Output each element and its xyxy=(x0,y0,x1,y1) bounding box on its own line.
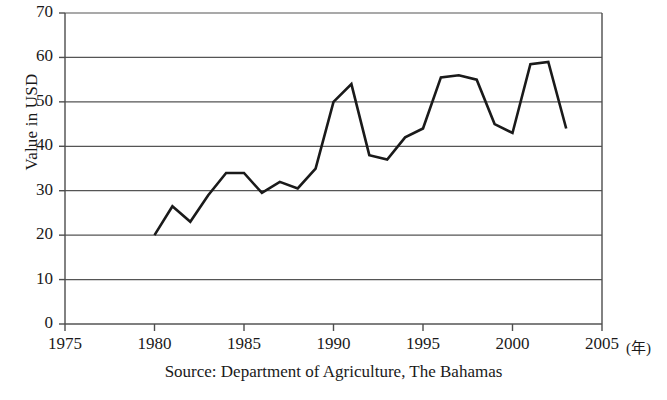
y-tick-label: 20 xyxy=(13,224,53,244)
source-note: Source: Department of Agriculture, The B… xyxy=(165,362,503,382)
x-tick-label: 2000 xyxy=(483,334,543,354)
y-tick-label: 40 xyxy=(13,135,53,155)
x-tick-label: 1985 xyxy=(214,334,274,354)
chart-figure: Value in USD 010203040506070 19751980198… xyxy=(0,0,667,400)
grid-lines xyxy=(65,13,602,324)
y-tick-label: 30 xyxy=(13,180,53,200)
x-tick-label: 1990 xyxy=(304,334,364,354)
y-tick-label: 70 xyxy=(13,2,53,22)
x-tick-label: 1980 xyxy=(125,334,185,354)
data-series-line xyxy=(155,62,567,235)
y-tick-label: 10 xyxy=(13,269,53,289)
x-tick-label: 1995 xyxy=(393,334,453,354)
x-tick-label: 1975 xyxy=(35,334,95,354)
y-tick-label: 50 xyxy=(13,91,53,111)
y-tick-label: 60 xyxy=(13,46,53,66)
y-axis-ticks xyxy=(59,13,65,324)
x-axis-unit-label: (年) xyxy=(626,336,651,357)
x-tick-label: 2005 xyxy=(572,334,632,354)
y-tick-label: 0 xyxy=(13,313,53,333)
x-axis-ticks xyxy=(65,324,602,331)
axis-lines xyxy=(65,13,602,324)
